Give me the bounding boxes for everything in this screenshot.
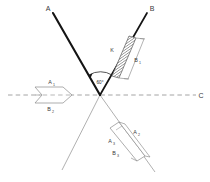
ray-axis-a xyxy=(53,13,100,95)
label-plane-a3: A xyxy=(108,138,112,144)
label-plane-a2-index: 2 xyxy=(138,133,140,137)
label-plane-b1-group: B 1 xyxy=(134,57,141,65)
label-plane-b3-index: 3 xyxy=(117,154,119,158)
label-plane-a1-index: 1 xyxy=(53,83,55,87)
label-plane-b1: B xyxy=(134,57,138,63)
label-plane-b1-index: 1 xyxy=(139,61,141,65)
label-plane-a2: A xyxy=(133,129,137,135)
label-plane-a1: A xyxy=(48,79,52,85)
label-plane-k: K xyxy=(110,47,114,53)
label-axis-a: A xyxy=(46,5,51,12)
hatched-plane-group xyxy=(108,32,145,84)
label-axis-c: C xyxy=(198,92,203,99)
ray-down-left xyxy=(62,95,100,170)
label-plane-b3-group: B 3 xyxy=(112,150,119,158)
label-plane-b2: B xyxy=(47,106,51,112)
label-plane-a1-group: A 1 xyxy=(48,79,55,87)
label-axis-b: B xyxy=(150,5,155,12)
label-plane-b2-index: 2 xyxy=(52,110,54,114)
label-plane-b3: B xyxy=(112,150,116,156)
label-plane-b2-group: B 2 xyxy=(47,106,54,114)
label-angle: 60° xyxy=(97,80,104,85)
diagram-canvas: A B C 60° K B 1 A 1 B 2 A 2 A xyxy=(0,0,210,182)
label-plane-a3-group: A 3 xyxy=(108,138,115,146)
geometry-diagram: A B C 60° K B 1 A 1 B 2 A 2 A xyxy=(0,0,210,182)
lower-plane-group xyxy=(110,122,150,161)
label-plane-a3-index: 3 xyxy=(113,142,115,146)
